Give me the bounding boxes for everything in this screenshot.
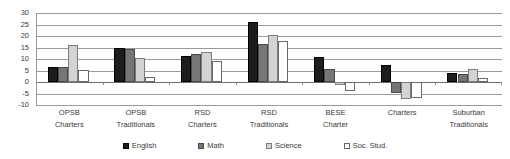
x-category-label-line: BESE: [302, 107, 369, 119]
bar-science: [68, 45, 78, 82]
y-tick-label: 25: [21, 21, 29, 29]
bar-science: [468, 69, 478, 82]
legend-label: Science: [275, 142, 302, 150]
bar-group: [302, 13, 369, 105]
bar-math: [458, 74, 468, 82]
bar-group: [103, 13, 170, 105]
x-category-label-line: Traditionals: [103, 119, 170, 131]
x-category-label: SuburbanTraditionals: [435, 107, 502, 130]
y-tick-label: 10: [21, 55, 29, 63]
bar-science: [135, 58, 145, 82]
y-tick-label: -10: [18, 101, 29, 109]
bar-english: [248, 22, 258, 82]
x-category-label-line: RSD: [236, 107, 303, 119]
legend-swatch-icon: [266, 143, 272, 149]
x-tick-mark: [103, 82, 104, 85]
bar-chart: 302520151050-5-10 OPSBChartersOPSBTradit…: [0, 0, 510, 159]
bar-soc: [212, 61, 222, 82]
x-category-label: RSDCharters: [169, 107, 236, 130]
bar-math: [191, 54, 201, 82]
x-category-label: OPSBCharters: [36, 107, 103, 130]
x-tick-mark: [169, 82, 170, 85]
x-category-label-line: Charters: [36, 119, 103, 131]
bar-group: [169, 13, 236, 105]
bar-science: [401, 82, 411, 99]
x-category-label: RSDTraditionals: [236, 107, 303, 130]
x-category-label: BESECharter: [302, 107, 369, 130]
bar-math: [391, 82, 401, 93]
y-tick-label: 5: [25, 67, 29, 75]
x-tick-mark: [501, 82, 502, 85]
y-tick-label: -5: [22, 90, 29, 98]
legend-item-math[interactable]: Math: [198, 142, 224, 150]
bar-soc: [411, 82, 421, 98]
bars-layer: [36, 13, 502, 105]
bar-english: [114, 48, 124, 82]
x-tick-mark: [302, 82, 303, 85]
bar-soc: [145, 77, 155, 82]
legend-swatch-icon: [344, 143, 350, 149]
x-category-label: Charters: [369, 107, 436, 119]
bar-soc: [278, 41, 288, 82]
bar-english: [447, 73, 457, 82]
legend-swatch-icon: [198, 143, 204, 149]
x-tick-mark: [435, 82, 436, 85]
x-tick-mark: [369, 82, 370, 85]
bar-english: [381, 65, 391, 82]
x-category-label-line: Traditionals: [435, 119, 502, 131]
bar-math: [125, 49, 135, 82]
bar-science: [201, 52, 211, 82]
x-category-label-line: Charters: [169, 119, 236, 131]
y-tick-label: 20: [21, 32, 29, 40]
y-tick-label: 15: [21, 44, 29, 52]
legend-item-science[interactable]: Science: [266, 142, 302, 150]
x-category-label-line: OPSB: [36, 107, 103, 119]
x-category-label: OPSBTraditionals: [103, 107, 170, 130]
bar-soc: [478, 78, 488, 82]
x-tick-mark: [236, 82, 237, 85]
gridline--10: [36, 105, 502, 106]
y-axis-tick-labels: 302520151050-5-10: [0, 13, 33, 105]
y-tick-label: 30: [21, 9, 29, 17]
x-category-label-line: Suburban: [435, 107, 502, 119]
bar-science: [268, 35, 278, 82]
legend-item-soc[interactable]: Soc. Stud.: [344, 142, 388, 150]
bar-group: [236, 13, 303, 105]
x-category-label-line: Traditionals: [236, 119, 303, 131]
legend-label: English: [132, 142, 157, 150]
bar-math: [58, 67, 68, 82]
legend-swatch-icon: [123, 143, 129, 149]
bar-group: [435, 13, 502, 105]
plot-area: [36, 13, 502, 105]
bar-group: [36, 13, 103, 105]
bar-english: [181, 56, 191, 82]
legend-label: Soc. Stud.: [353, 142, 388, 150]
x-category-label-line: RSD: [169, 107, 236, 119]
y-tick-label: 0: [25, 78, 29, 86]
bar-soc: [345, 82, 355, 91]
x-tick-mark: [36, 82, 37, 85]
x-axis-category-labels: OPSBChartersOPSBTraditionalsRSDChartersR…: [36, 107, 502, 135]
chart-legend: EnglishMathScienceSoc. Stud.: [0, 139, 510, 153]
legend-item-english[interactable]: English: [123, 142, 157, 150]
x-category-label-line: Charters: [369, 107, 436, 119]
x-category-label-line: Charter: [302, 119, 369, 131]
x-category-label-line: OPSB: [103, 107, 170, 119]
bar-math: [324, 69, 334, 82]
bar-science: [335, 82, 345, 85]
legend-label: Math: [207, 142, 224, 150]
bar-soc: [78, 70, 88, 82]
bar-group: [369, 13, 436, 105]
bar-math: [258, 44, 268, 82]
bar-english: [48, 67, 58, 82]
bar-english: [314, 57, 324, 82]
